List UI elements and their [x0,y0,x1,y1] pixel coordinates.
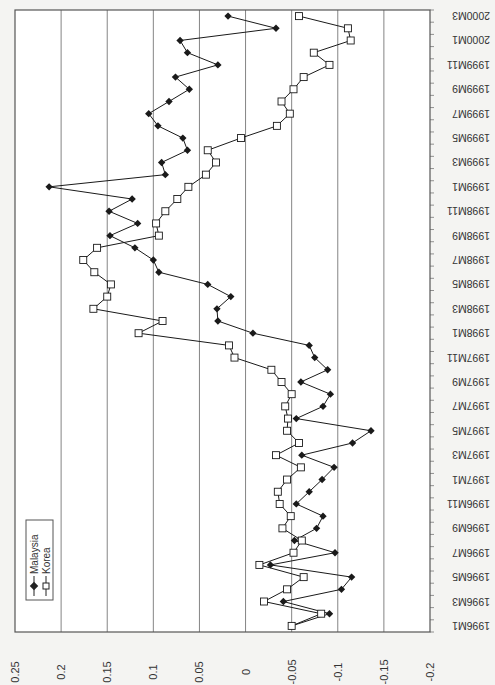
value-tick-label: -0.1 [332,663,344,682]
data-point-korea [162,208,169,215]
category-tick-label: 1997M3 [452,449,490,461]
category-tick-label: 2000M3 [452,10,490,22]
value-tick-label: 0.1 [147,664,159,679]
category-tick-label: 1997M1 [452,474,490,486]
data-point-korea [296,13,303,20]
category-tick-label: 1996M11 [447,498,490,510]
data-point-korea [272,452,279,459]
data-point-korea [135,330,142,337]
data-point-korea [290,549,297,556]
category-tick-label: 1999M7 [452,108,490,120]
category-tick-label: 1996M9 [452,522,490,534]
category-tick-label: 1996M1 [452,620,490,632]
category-tick-label: 1999M9 [452,83,490,95]
category-tick-label: 1999M3 [452,156,490,168]
value-tick-label: 0.2 [55,664,67,679]
data-point-korea [279,525,286,532]
category-tick-label: 1999M5 [452,132,490,144]
value-tick-label: -0.05 [286,659,298,684]
data-point-korea [284,586,291,593]
legend-korea-square-icon [43,583,49,589]
value-tick-label: -0.2 [424,663,436,682]
data-point-korea [274,488,281,495]
data-point-korea [290,86,297,93]
category-tick-label: 1997M9 [452,376,490,388]
legend: Malaysia Korea [26,520,53,600]
data-point-korea [310,49,317,56]
data-point-korea [202,171,209,178]
data-point-korea [288,391,295,398]
category-tick-label: 1997M5 [452,425,490,437]
data-point-korea [256,561,263,568]
data-point-korea [318,610,325,617]
category-tick-label: 1999M11 [447,59,490,71]
data-point-korea [155,232,162,239]
data-point-korea [153,220,160,227]
data-point-korea [296,439,303,446]
data-point-korea [347,37,354,44]
data-point-korea [174,196,181,203]
data-point-korea [287,513,294,520]
category-tick-label: 1997M7 [452,400,490,412]
data-point-korea [268,366,275,373]
category-tick-label: 1998M9 [452,230,490,242]
data-point-korea [298,537,305,544]
category-tick-label: 1998M1 [452,327,490,339]
line-chart: 0.250.20.150.10.050-0.05-0.1-0.15-0.2 19… [0,0,495,685]
value-tick-label: 0.05 [193,661,205,682]
data-point-korea [159,318,166,325]
value-tick-label: 0.15 [101,661,113,682]
data-point-korea [261,598,268,605]
data-point-korea [300,74,307,81]
data-point-korea [94,244,101,251]
data-point-korea [237,135,244,142]
data-point-korea [278,98,285,105]
category-tick-label: 1998M3 [452,303,490,315]
data-point-korea [300,574,307,581]
data-point-korea [107,281,114,288]
value-tick-label: -0.15 [378,659,390,684]
data-point-korea [213,159,220,166]
value-tick-label: 0 [240,669,252,675]
plot-area [15,10,430,632]
category-tick-label: 1998M7 [452,254,490,266]
data-point-korea [344,25,351,32]
data-point-korea [284,427,291,434]
data-point-korea [282,403,289,410]
data-point-korea [90,305,97,312]
category-tick-label: 1998M5 [452,278,490,290]
legend-label-korea: Korea [41,547,52,574]
data-point-korea [288,622,295,629]
legend-label-malaysia: Malaysia [29,534,40,574]
data-point-korea [273,122,280,129]
data-point-korea [284,415,291,422]
data-point-korea [284,476,291,483]
data-point-korea [225,342,232,349]
value-tick-label: 0.25 [9,661,21,682]
data-point-korea [326,61,333,68]
category-tick-label: 1996M7 [452,547,490,559]
category-tick-label: 1996M3 [452,596,490,608]
data-point-korea [204,147,211,154]
category-tick-label: 2000M1 [452,34,490,46]
category-tick-label: 1996M5 [452,571,490,583]
data-point-korea [278,378,285,385]
category-tick-label: 1998M11 [447,205,490,217]
data-point-korea [231,354,238,361]
data-point-korea [104,293,111,300]
data-point-korea [276,500,283,507]
category-tick-label: 1997M11 [447,352,490,364]
data-point-korea [286,110,293,117]
data-point-korea [91,269,98,276]
data-point-korea [185,183,192,190]
data-point-korea [297,464,304,471]
data-point-korea [80,257,87,264]
category-tick-label: 1999M1 [452,181,490,193]
